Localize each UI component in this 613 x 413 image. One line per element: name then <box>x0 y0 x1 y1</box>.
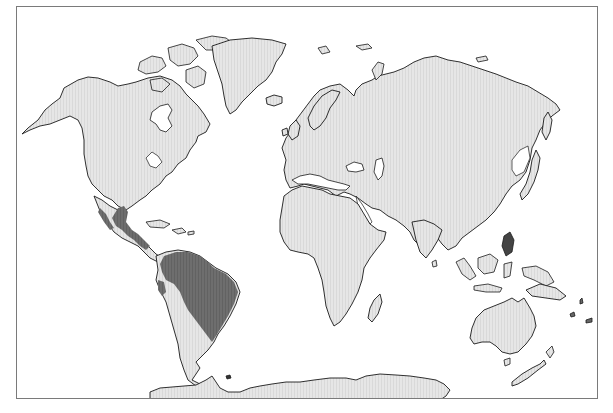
new-guinea <box>526 284 566 300</box>
madagascar <box>368 294 382 322</box>
antarctica <box>150 374 450 400</box>
ireland <box>282 128 288 136</box>
new-zealand <box>512 360 546 386</box>
philippines <box>502 232 514 256</box>
caribbean-islands <box>146 220 194 235</box>
sri-lanka <box>432 260 437 267</box>
iceland <box>266 95 282 106</box>
falkland-islands <box>226 375 231 379</box>
australia <box>470 298 536 354</box>
tasmania <box>504 358 510 366</box>
pacific-islands <box>570 298 592 323</box>
world-map <box>0 0 613 413</box>
north-america <box>22 76 210 210</box>
new-zealand-north <box>546 346 554 358</box>
